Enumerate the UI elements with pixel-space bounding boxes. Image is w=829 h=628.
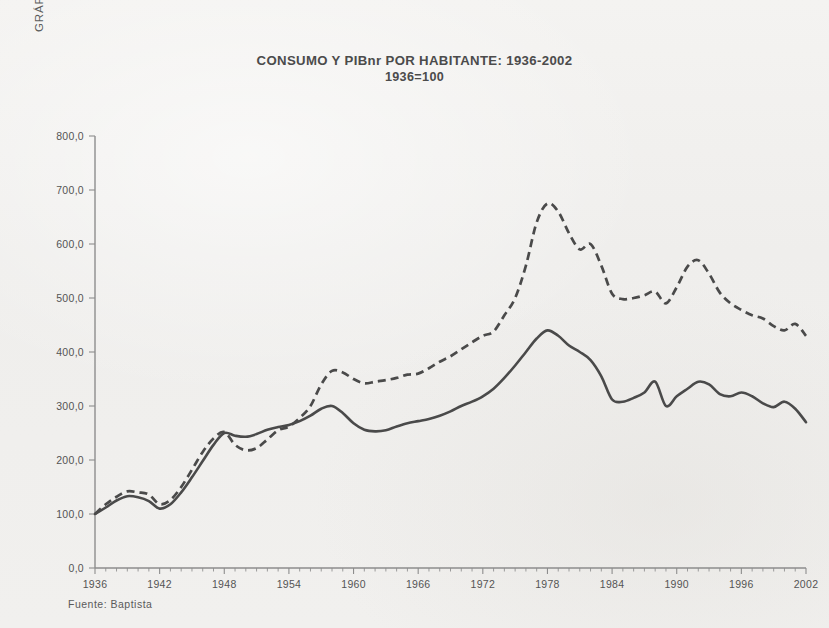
y-axis-ticks: 0,0100,0200,0300,0400,0500,0600,0700,080… [56,130,95,574]
source-note: Fuente: Baptista [68,598,152,610]
y-tick-label: 100,0 [56,508,84,520]
series-line-pibnr [95,203,806,514]
chart-plot-area: 0,0100,0200,0300,0400,0500,0600,0700,080… [0,0,829,628]
x-tick-label: 1978 [535,578,560,590]
x-tick-label: 1960 [341,578,366,590]
y-tick-label: 600,0 [56,238,84,250]
x-tick-label: 1966 [406,578,431,590]
y-tick-label: 200,0 [56,454,84,466]
y-tick-label: 800,0 [56,130,84,142]
x-tick-label: 2002 [794,578,819,590]
x-tick-label: 1990 [664,578,689,590]
x-tick-label: 1954 [277,578,302,590]
y-tick-label: 500,0 [56,292,84,304]
line-chart: 0,0100,0200,0300,0400,0500,0600,0700,080… [0,0,829,628]
x-tick-label: 1948 [212,578,237,590]
y-tick-label: 300,0 [56,400,84,412]
y-tick-label: 700,0 [56,184,84,196]
x-tick-label: 1942 [147,578,172,590]
x-tick-label: 1936 [83,578,108,590]
y-tick-label: 400,0 [56,346,84,358]
series-line-consumo [95,330,806,514]
y-tick-label: 0,0 [69,562,85,574]
x-tick-label: 1984 [600,578,625,590]
x-tick-label: 1972 [471,578,496,590]
x-tick-label: 1996 [729,578,754,590]
